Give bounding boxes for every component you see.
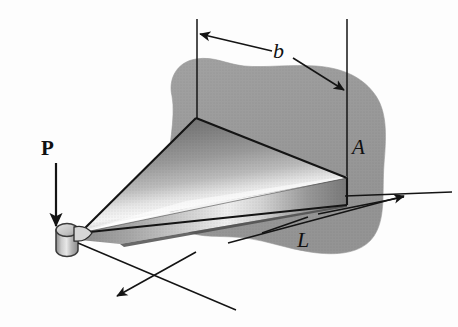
label-P: P: [41, 138, 54, 159]
label-L: L: [297, 229, 309, 251]
diagram-svg: [0, 0, 458, 327]
label-b: b: [273, 40, 284, 62]
b-dimension-arrow-left: [200, 34, 272, 51]
L-extension-line-near: [78, 243, 236, 310]
L-dimension-arrow-left: [117, 252, 196, 296]
label-A: A: [352, 137, 365, 158]
figure-canvas: P b A L: [0, 0, 458, 327]
